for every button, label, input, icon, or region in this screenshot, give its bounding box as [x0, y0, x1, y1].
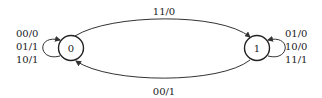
transition-0-to-1-label: 11/0 — [153, 6, 175, 17]
self-loop-0-label-1: 00/0 — [16, 28, 38, 39]
self-loop-1-label-2: 10/0 — [285, 41, 307, 52]
state-diagram: 11/0 00/1 00/0 01/1 10/1 01/0 10/0 11/1 … — [0, 0, 322, 98]
state-1: 1 — [245, 36, 270, 61]
transition-1-to-0-label: 00/1 — [153, 86, 175, 97]
state-0: 0 — [59, 36, 84, 61]
state-1-label: 1 — [254, 43, 260, 54]
self-loop-0-label-2: 01/1 — [16, 41, 38, 52]
state-0-label: 0 — [68, 43, 74, 54]
self-loop-1-arrow — [268, 39, 285, 57]
self-loop-0-arrow — [43, 39, 60, 57]
transition-0-to-1-arrow — [75, 19, 250, 37]
self-loop-1-label-1: 01/0 — [285, 28, 307, 39]
transition-1-to-0-arrow — [76, 60, 250, 78]
self-loop-1-label-3: 11/1 — [285, 54, 307, 65]
self-loop-0-label-3: 10/1 — [16, 54, 38, 65]
